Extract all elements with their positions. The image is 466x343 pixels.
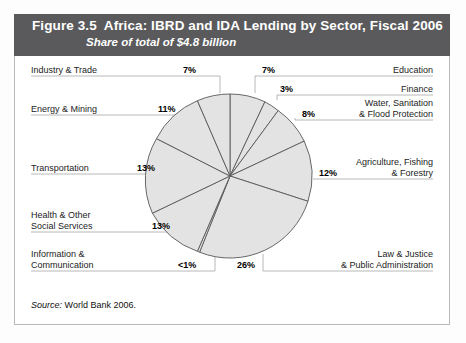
figure-subtitle: Share of total of $4.8 billion: [86, 36, 236, 48]
pct-information-communication: <1%: [178, 260, 196, 270]
label-transportation-line1: Transportation: [31, 163, 89, 173]
label-health-social-line2: Social Services: [31, 221, 93, 232]
label-agriculture-line1: Agriculture, Fishing: [356, 157, 433, 168]
source-label: Source:: [31, 300, 62, 310]
label-law-justice-line2: & Public Administration: [341, 260, 433, 271]
label-industry-trade-line1: Industry & Trade: [31, 65, 97, 75]
label-health-social: Health & Other Social Services: [31, 210, 93, 232]
pct-industry-trade: 7%: [183, 65, 196, 75]
label-energy-mining-line1: Energy & Mining: [31, 104, 97, 114]
leader-industry-trade: [31, 76, 220, 93]
pct-water-sanitation: 8%: [302, 109, 315, 119]
label-finance: Finance: [401, 84, 433, 95]
pct-law-justice: 26%: [237, 260, 255, 270]
label-information-communication: Information & Communication: [31, 249, 94, 271]
figure-number: Figure 3.5: [32, 18, 97, 33]
label-agriculture: Agriculture, Fishing & Forestry: [356, 157, 433, 179]
label-information-communication-line2: Communication: [31, 260, 94, 271]
pie-slice-group: [145, 94, 312, 258]
pie-chart: [15, 56, 449, 324]
figure-title: Figure 3.5Africa: IBRD and IDA Lending b…: [32, 18, 443, 33]
pct-finance: 3%: [280, 84, 293, 94]
label-water-sanitation: Water, Sanitation & Flood Protection: [359, 98, 433, 120]
label-transportation: Transportation: [31, 163, 89, 174]
label-information-communication-line1: Information &: [31, 249, 94, 260]
pct-agriculture: 12%: [319, 168, 337, 178]
pct-education: 7%: [262, 65, 275, 75]
label-agriculture-line2: & Forestry: [356, 168, 433, 179]
label-education: Education: [393, 65, 433, 76]
label-industry-trade: Industry & Trade: [31, 65, 97, 76]
label-water-sanitation-line1: Water, Sanitation: [359, 98, 433, 109]
label-law-justice: Law & Justice & Public Administration: [341, 249, 433, 271]
label-energy-mining: Energy & Mining: [31, 104, 97, 115]
figure-title-text: Africa: IBRD and IDA Lending by Sector, …: [104, 18, 443, 33]
label-law-justice-line1: Law & Justice: [341, 249, 433, 260]
pct-health-social: 13%: [152, 221, 170, 231]
label-health-social-line1: Health & Other: [31, 210, 93, 221]
figure-root: Figure 3.5Africa: IBRD and IDA Lending b…: [0, 0, 466, 343]
pct-energy-mining: 11%: [158, 104, 176, 114]
figure-title-banner: Figure 3.5Africa: IBRD and IDA Lending b…: [14, 14, 450, 56]
source-text: World Bank 2006.: [65, 300, 136, 310]
label-finance-line1: Finance: [401, 84, 433, 94]
label-education-line1: Education: [393, 65, 433, 75]
chart-plot-area: Industry & Trade 7% Energy & Mining 11% …: [15, 56, 449, 324]
pct-transportation: 13%: [137, 163, 155, 173]
source-note: Source: World Bank 2006.: [31, 300, 136, 310]
label-water-sanitation-line2: & Flood Protection: [359, 109, 433, 120]
